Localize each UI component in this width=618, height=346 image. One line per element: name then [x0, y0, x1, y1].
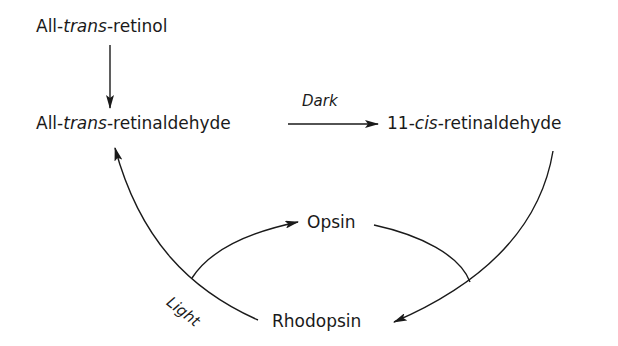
- node-prefix: All-: [36, 113, 63, 133]
- arrow-rhodopsin-to-trans-retinal: [115, 148, 258, 320]
- arrow-branch-to-opsin: [192, 222, 298, 278]
- node-opsin: Opsin: [307, 212, 356, 232]
- arrows-layer: [0, 0, 618, 346]
- node-suffix: -retinaldehyde: [107, 113, 231, 133]
- node-11-cis-retinaldehyde: 11-cis-retinaldehyde: [387, 113, 562, 133]
- node-italic: trans: [63, 16, 107, 36]
- node-suffix: -retinol: [107, 16, 168, 36]
- arrow-cis-to-rhodopsin: [394, 151, 553, 322]
- node-rhodopsin: Rhodopsin: [272, 311, 361, 331]
- visual-cycle-diagram: All-trans-retinol All-trans-retinaldehyd…: [0, 0, 618, 346]
- node-italic: cis: [415, 113, 438, 133]
- condition-dark: Dark: [302, 92, 338, 110]
- node-all-trans-retinol: All-trans-retinol: [36, 16, 167, 36]
- node-prefix: 11-: [387, 113, 415, 133]
- node-suffix: -retinaldehyde: [438, 113, 562, 133]
- arrow-opsin-to-rhodopsin: [374, 225, 470, 282]
- node-italic: trans: [63, 113, 107, 133]
- node-all-trans-retinaldehyde: All-trans-retinaldehyde: [36, 113, 231, 133]
- node-prefix: All-: [36, 16, 63, 36]
